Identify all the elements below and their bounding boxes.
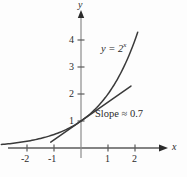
y-tick-label-2: 2 xyxy=(69,88,74,99)
x-axis-label: x xyxy=(172,141,176,152)
x-tick-label-1: 1 xyxy=(105,153,110,164)
x-axis-arrow-icon xyxy=(159,145,168,152)
y-axis-label: y xyxy=(78,0,82,10)
curve-equation-label: y = 2x xyxy=(101,41,126,54)
x-tick-label-2: 2 xyxy=(132,153,137,164)
x-tick-label--1: -1 xyxy=(48,153,56,164)
curve-equation-exponent: x xyxy=(123,41,126,49)
y-tick-label-3: 3 xyxy=(69,61,74,72)
curve-equation-base: y = 2 xyxy=(101,43,123,54)
y-axis-arrow-icon xyxy=(78,10,84,18)
exponential-function-figure: -2 -1 1 2 1 2 3 4 y x y = 2x Slope ≈ 0.7 xyxy=(0,0,187,177)
y-tick-label-1: 1 xyxy=(69,115,74,126)
plot-canvas xyxy=(0,0,187,177)
y-tick-label-4: 4 xyxy=(69,34,74,45)
x-tick-label--2: -2 xyxy=(21,153,29,164)
slope-annotation: Slope ≈ 0.7 xyxy=(95,108,143,119)
